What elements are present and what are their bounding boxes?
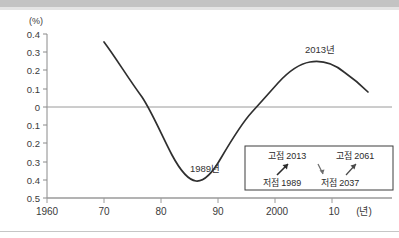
legend-peak-left-label: 고점 2013	[268, 150, 307, 161]
y-tick-label-2: 0.2	[27, 65, 40, 76]
y-tick-label-9: 0.5	[27, 193, 40, 204]
y-tick-label-8: 0.4	[27, 175, 40, 186]
legend-trough-left-label: 저점 1989	[263, 177, 302, 188]
x-tick-label-4: 2000	[266, 206, 289, 217]
y-tick-label-1: 0.3	[27, 47, 40, 58]
y-axis-unit-label: (%)	[29, 16, 43, 26]
line-chart-plot: (%) 0.4 0.3 0.2 0.1 0 0.1 0.2 0.3 0.4 0.…	[0, 0, 399, 238]
x-tick-label-3: 90	[212, 206, 224, 217]
y-tick-label-7: 0.3	[27, 157, 40, 168]
y-tick-label-6: 0.2	[27, 138, 40, 149]
legend-trough-right-label: 저점 2037	[321, 177, 360, 188]
y-tick-label-4: 0	[35, 102, 40, 113]
y-tick-label-0: 0.4	[27, 29, 40, 40]
x-tick-label-0: 1960	[36, 206, 59, 217]
x-tick-marks	[47, 198, 332, 203]
y-tick-label-5: 0.1	[27, 120, 40, 131]
chart-figure: (%) 0.4 0.3 0.2 0.1 0 0.1 0.2 0.3 0.4 0.…	[0, 0, 399, 238]
y-tick-label-3: 0.1	[27, 84, 40, 95]
x-tick-label-5: 10	[328, 206, 340, 217]
y-tick-marks	[43, 34, 47, 198]
x-axis-unit-label: (년)	[356, 206, 372, 217]
annotation-peak-2013: 2013년	[305, 44, 335, 55]
x-tick-label-2: 80	[155, 206, 167, 217]
x-tick-label-1: 70	[98, 206, 110, 217]
legend-peak-right-label: 고점 2061	[336, 150, 375, 161]
annotation-trough-1989: 1989년	[190, 163, 220, 174]
